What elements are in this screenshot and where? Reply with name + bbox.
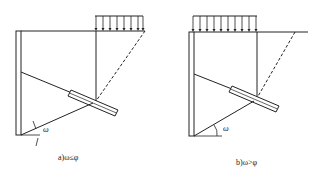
diagram-canvas <box>0 0 322 180</box>
failure-plane <box>21 103 93 135</box>
sliding-wedge-dashed-line <box>96 31 145 101</box>
sliding-wedge-dashed-line <box>257 32 295 98</box>
retaining-wall <box>16 31 21 135</box>
anchor-rod <box>194 74 232 89</box>
surcharge-load <box>95 16 145 31</box>
surcharge-load <box>192 16 258 32</box>
caption-a: a)ω≤φ <box>58 153 79 162</box>
anchor-rod <box>21 72 72 93</box>
panel-b <box>189 16 308 136</box>
panel-a <box>16 16 145 146</box>
caption-b: b)ω>φ <box>236 158 257 167</box>
angle-label-a: ω <box>43 125 49 134</box>
retaining-wall <box>189 32 194 136</box>
angle-label-b: ω <box>223 124 229 133</box>
